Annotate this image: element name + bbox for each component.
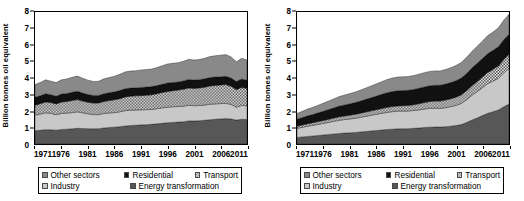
y-axis-tick-label: 5 — [286, 57, 291, 66]
x-axis-tick-mark — [350, 146, 351, 149]
legend-item-other-sectors: Other sectors — [304, 171, 386, 180]
x-axis-tick-mark — [114, 146, 115, 149]
x-axis-tick-mark — [323, 146, 324, 149]
x-axis-tick-label: 2001 — [447, 150, 465, 159]
y-axis-tick-label: 2 — [286, 107, 291, 116]
x-axis-tick-mark — [376, 146, 377, 149]
x-axis-tick-mark — [221, 146, 222, 149]
legend-item-industry: Industry — [42, 182, 130, 191]
x-axis-tick-mark — [457, 146, 458, 149]
x-axis-tick-label: 1971 — [296, 150, 314, 159]
legend-swatch-transport-icon — [195, 172, 201, 178]
x-axis-tick-mark — [88, 146, 89, 149]
x-axis-tick-label: 2006 — [212, 150, 230, 159]
legend-swatch-industry-icon — [42, 183, 48, 189]
x-axis-tick-mark — [61, 146, 62, 149]
legend-swatch-residential-icon — [124, 172, 130, 178]
y-axis-tick-label: 4 — [24, 74, 29, 83]
y-axis-ticks-oecd: 012345678 — [0, 11, 34, 145]
legend-item-transport: Transport — [457, 171, 500, 180]
x-axis-tick-label: 1976 — [52, 150, 70, 159]
legend-swatch-residential-icon — [386, 172, 392, 178]
x-axis-tick-mark — [430, 146, 431, 149]
y-axis-tick-label: 6 — [24, 40, 29, 49]
x-axis-tick-label: 1986 — [105, 150, 123, 159]
y-axis-tick-label: 3 — [24, 90, 29, 99]
y-axis-tick-label: 4 — [286, 74, 291, 83]
legend-label-industry: Industry — [313, 182, 342, 191]
y-axis-tick-label: 1 — [286, 124, 291, 133]
legend-non-oecd: Other sectors Residential Transport Indu… — [300, 167, 504, 194]
legend-item-energy-transformation: Energy transformation — [130, 182, 219, 191]
x-axis-tick-label: 1981 — [340, 150, 358, 159]
legend-swatch-transport-icon — [457, 172, 463, 178]
x-axis-tick-label: 1971 — [34, 150, 52, 159]
legend-label-other-sectors: Other sectors — [313, 171, 362, 180]
legend-row-1: Other sectors Residential Transport — [304, 170, 500, 181]
legend-swatch-energy-transformation-icon — [392, 183, 398, 189]
y-axis-tick-label: 8 — [286, 7, 291, 16]
legend-item-industry: Industry — [304, 182, 392, 191]
x-axis-tick-mark — [141, 146, 142, 149]
y-axis-tick-label: 7 — [24, 23, 29, 32]
legend-label-transport: Transport — [465, 171, 500, 180]
legend-item-residential: Residential — [124, 171, 195, 180]
chart-panel-oecd: Billion tonnes oil equivalent 012345678 … — [0, 0, 262, 201]
legend-item-other-sectors: Other sectors — [42, 171, 124, 180]
y-axis-tick-label: 2 — [24, 107, 29, 116]
x-axis-tick-label: 1976 — [314, 150, 332, 159]
chart-panel-non-oecd: Billion tonnes oil equivalent 012345678 … — [262, 0, 524, 201]
y-axis-tick-label: 1 — [24, 124, 29, 133]
plot-area-oecd — [34, 11, 248, 145]
x-axis-tick-label: 1991 — [394, 150, 412, 159]
stacked-area-svg-non-oecd — [297, 12, 509, 144]
legend-item-transport: Transport — [195, 171, 238, 180]
legend-swatch-industry-icon — [304, 183, 310, 189]
legend-row-1: Other sectors Residential Transport — [42, 170, 238, 181]
y-axis-tick-label: 5 — [24, 57, 29, 66]
x-axis-tick-mark — [403, 146, 404, 149]
x-axis-tick-mark — [34, 146, 35, 149]
legend-label-transport: Transport — [203, 171, 238, 180]
x-axis-tick-label: 1981 — [78, 150, 96, 159]
legend-swatch-other-sectors-icon — [42, 172, 48, 178]
legend-label-other-sectors: Other sectors — [51, 171, 100, 180]
x-axis-tick-label: 2011 — [230, 150, 248, 159]
x-axis-tick-mark — [296, 146, 297, 149]
x-axis-ticks-oecd: 197119761981198619911996200120062011 — [34, 146, 248, 160]
y-axis-tick-label: 7 — [286, 23, 291, 32]
stacked-area-svg-oecd — [35, 12, 247, 144]
x-axis-tick-mark — [483, 146, 484, 149]
legend-row-2: Industry Energy transformation — [42, 181, 238, 192]
x-axis-tick-label: 2006 — [474, 150, 492, 159]
x-axis-tick-label: 2011 — [492, 150, 510, 159]
legend-label-industry: Industry — [51, 182, 80, 191]
y-axis-tick-label: 0 — [286, 141, 291, 150]
x-axis-ticks-non-oecd: 197119761981198619911996200120062011 — [296, 146, 510, 160]
x-axis-tick-mark — [168, 146, 169, 149]
x-axis-tick-label: 1986 — [367, 150, 385, 159]
x-axis-tick-mark — [248, 146, 249, 149]
legend-swatch-energy-transformation-icon — [130, 183, 136, 189]
legend-oecd: Other sectors Residential Transport Indu… — [38, 167, 242, 194]
y-axis-tick-label: 3 — [286, 90, 291, 99]
legend-label-energy-transformation: Energy transformation — [401, 182, 482, 191]
x-axis-tick-label: 1996 — [421, 150, 439, 159]
x-axis-tick-mark — [195, 146, 196, 149]
figure-container: Billion tonnes oil equivalent 012345678 … — [0, 0, 524, 201]
x-axis-tick-label: 2001 — [185, 150, 203, 159]
y-axis-tick-label: 0 — [24, 141, 29, 150]
legend-item-energy-transformation: Energy transformation — [392, 182, 481, 191]
x-axis-tick-mark — [510, 146, 511, 149]
y-axis-ticks-non-oecd: 012345678 — [262, 11, 296, 145]
legend-label-residential: Residential — [132, 171, 173, 180]
legend-item-residential: Residential — [386, 171, 457, 180]
legend-swatch-other-sectors-icon — [304, 172, 310, 178]
legend-row-2: Industry Energy transformation — [304, 181, 500, 192]
legend-label-energy-transformation: Energy transformation — [139, 182, 220, 191]
y-axis-tick-label: 8 — [24, 7, 29, 16]
legend-label-residential: Residential — [394, 171, 435, 180]
x-axis-tick-label: 1996 — [159, 150, 177, 159]
y-axis-tick-label: 6 — [286, 40, 291, 49]
plot-area-non-oecd — [296, 11, 510, 145]
